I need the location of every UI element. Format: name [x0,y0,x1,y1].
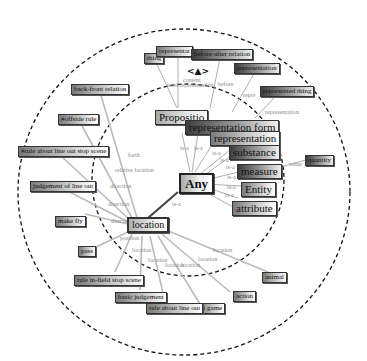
edge-label-is-a-7: is-a [227,184,236,190]
node-animal[interactable]: animal [262,272,287,283]
edge-label-is-a-6: is-a [227,174,236,180]
node-any[interactable]: Any [179,173,214,194]
node-rule-about-line-out-stop-scene[interactable]: #rule about line out stop scene [18,146,109,157]
edge-label-is-a-5: is-a [226,164,235,170]
node-representat[interactable]: representat [156,46,193,57]
node-attribute[interactable]: attribute [232,201,277,216]
node-representation[interactable]: representation [210,131,280,146]
edge-label-forth: forth [128,152,140,158]
node-substance[interactable]: substance [229,145,280,160]
edge-label-representation: representation [265,109,299,115]
node-action[interactable]: action [233,291,256,302]
node-basic-judgement[interactable]: basic judgement [115,292,167,303]
node-quantity[interactable]: quantity [305,155,334,166]
ontology-graph: content used representation before repre… [0,0,367,361]
node-make-fly[interactable]: make fly [55,216,86,227]
edge-label-is-a-8: is-a [225,192,234,198]
node-representation-outer[interactable]: representation [234,63,280,74]
edge-label-location-4: location [181,262,200,268]
node-represented-thing[interactable]: represented thing [260,86,314,97]
edge-label-location-1: location [132,247,151,253]
node-before-after-relation[interactable]: before-after relation [191,49,253,60]
edge-label-position: position [120,235,139,241]
node-judgement-of-line-out[interactable]: judgement of line out [30,181,96,192]
edge-label-is-a-2: is-a [194,145,203,151]
edge-label-direction-1: direction [110,183,131,189]
node-rule-about-line-out[interactable]: rule about line out [146,303,203,314]
edge-label-is-a-4: is-a [220,157,229,163]
node-offside-rule[interactable]: #offside rule [58,114,99,125]
edge-label-is-a-1: is-a [180,145,189,151]
node-location[interactable]: location [127,217,169,233]
node-pass[interactable]: pass [78,246,96,257]
edge-label-before: before [218,81,233,87]
node-rule-in-field-stop-scene[interactable]: rule in-field stop scene [74,275,144,286]
edge-label-location-6: location [213,247,232,253]
node-back-front-relation[interactable]: back-front relation [71,84,129,95]
edge-label-direction-2: direction [108,201,129,207]
edge-label-location-5: location [198,256,217,262]
edge-label-value: value [289,161,302,167]
navigation-arrows[interactable]: <▲> [187,67,209,76]
edge-label-is-a-3: is-a [212,150,221,156]
edge-label-repre: repre [243,92,255,98]
node-measure[interactable]: measure [237,164,282,179]
edge-label-relative-location: relative location [115,167,154,173]
edge-label-is-a-9: is-a [172,201,181,207]
edge-label-used-representation: used representation [167,82,213,88]
node-entity[interactable]: Entity [241,182,276,197]
